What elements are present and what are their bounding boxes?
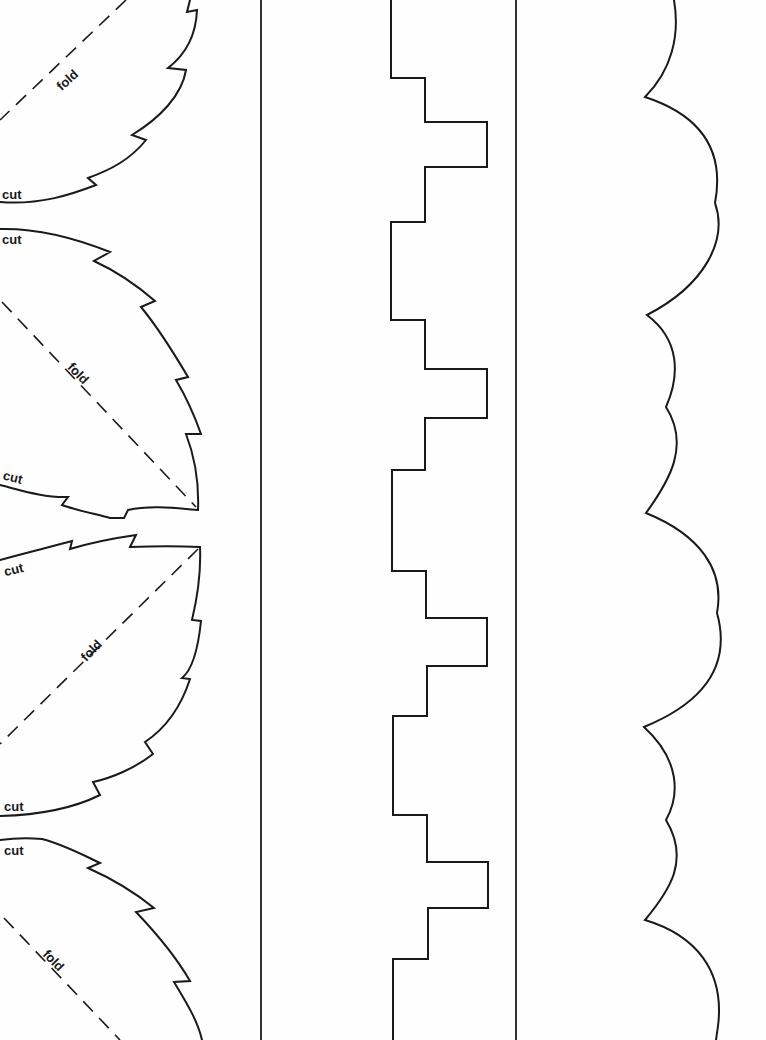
leaf-4-fold-line: [4, 918, 120, 1040]
template-page: fold cut fold cut cut fold cut cut fold …: [0, 0, 766, 1040]
leaf-1-fold-line: [0, 0, 126, 120]
leaf-3-fold-label: fold: [78, 637, 105, 665]
leaf-2: fold cut cut: [0, 229, 201, 518]
leaf-4-outline: [0, 838, 202, 1040]
leaf-2-fold-line: [2, 302, 196, 507]
leaf-3: fold cut cut: [0, 535, 201, 816]
leaf-4: fold cut: [0, 838, 202, 1040]
leaf-4-fold-label: fold: [40, 947, 67, 975]
leaf-4-cut-label: cut: [4, 843, 24, 858]
leaf-2-cut-label-top: cut: [2, 232, 22, 247]
leaf-2-outline: [0, 229, 201, 518]
leaf-3-cut-label-top: cut: [2, 560, 25, 579]
scalloped-border-outline: [644, 0, 721, 1040]
leaf-1: fold cut: [0, 0, 197, 203]
template-drawing: fold cut fold cut cut fold cut cut fold …: [0, 0, 766, 1040]
leaf-1-fold-label: fold: [53, 66, 81, 93]
leaf-3-cut-label-bottom: cut: [4, 799, 24, 814]
leaf-2-fold-label: fold: [65, 359, 92, 387]
leaf-1-cut-label: cut: [2, 187, 22, 202]
stepped-border-outline: [391, 0, 488, 1040]
leaf-3-outline: [0, 535, 201, 816]
leaf-2-cut-label-bottom: cut: [2, 468, 25, 487]
leaf-1-outline: [0, 0, 197, 203]
